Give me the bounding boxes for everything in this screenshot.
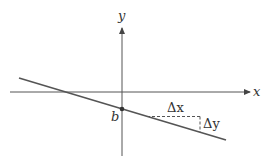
slope-intercept-diagram: x y b Δx Δy: [0, 0, 269, 166]
intercept-label: b: [111, 109, 119, 124]
delta-x-label: Δx: [167, 100, 184, 115]
x-axis-label: x: [253, 84, 261, 99]
y-axis-label: y: [117, 8, 126, 23]
delta-y-label: Δy: [203, 116, 220, 131]
intercept-point: [120, 107, 125, 112]
